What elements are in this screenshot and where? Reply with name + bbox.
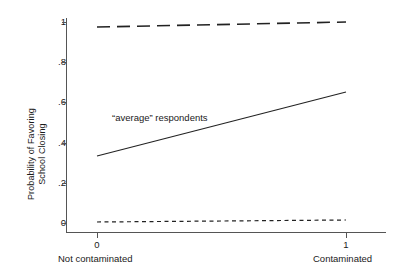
chart-figure: Probability of Favoring School Closing 1… [0, 0, 394, 272]
x-tick-label-1: 1 [343, 239, 348, 250]
series-annotation-average: “average” respondents [112, 112, 208, 123]
x-tick-label-0: 0 [94, 239, 99, 250]
x-category-label-contaminated: Contaminated [313, 253, 372, 264]
series-line-lower [97, 220, 346, 222]
series-line-average [97, 92, 346, 156]
series-line-upper [97, 22, 346, 27]
x-category-label-not-contaminated: Not contaminated [58, 253, 132, 264]
plot-area [0, 0, 394, 272]
